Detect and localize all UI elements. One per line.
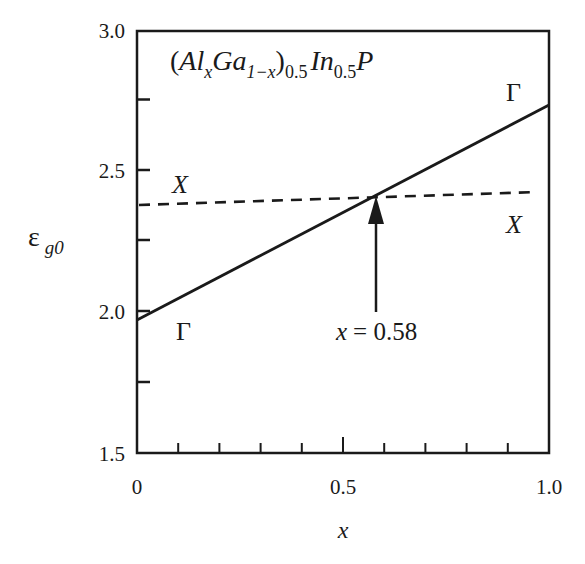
x-tick-label: 1.0 — [536, 475, 562, 499]
y-tick-label: 2.0 — [99, 300, 125, 324]
crossing-arrow — [368, 196, 384, 312]
x-label-left: X — [171, 170, 189, 199]
x-label-right: X — [505, 210, 523, 239]
y-axis-label: εg0 — [28, 221, 64, 258]
y-axis-ticks — [137, 100, 150, 383]
band-gap-chart: 3.0 2.5 2.0 1.5 0 0.5 1.0 x εg0 (AlxGa1−… — [0, 0, 585, 564]
y-tick-label: 2.5 — [99, 159, 125, 183]
x-tick-label: 0.5 — [330, 475, 356, 499]
x-axis-label: x — [337, 517, 349, 543]
chart-title: (AlxGa1−x)0.5In0.5P — [170, 45, 373, 82]
x-tick-label: 0 — [132, 475, 143, 499]
gamma-band-line — [137, 105, 549, 320]
x-axis-ticks — [178, 437, 508, 453]
plot-frame — [137, 31, 549, 453]
gamma-label-right: Γ — [506, 78, 521, 107]
gamma-label-left: Γ — [176, 317, 191, 346]
crossing-annotation: x= 0.58 — [335, 318, 417, 345]
x-band-line — [139, 192, 537, 205]
y-tick-label: 3.0 — [99, 19, 125, 43]
y-tick-label: 1.5 — [99, 442, 125, 466]
